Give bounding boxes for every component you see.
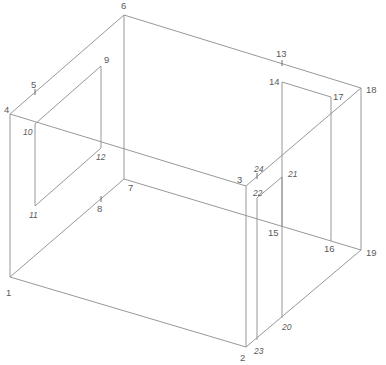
vertex-label-7: 7 (128, 182, 133, 193)
vertex-label-2: 2 (240, 352, 245, 363)
vertex-labels-group: 123456789101112131415161718192021222324 (4, 0, 377, 363)
room-wireframe-diagram: 123456789101112131415161718192021222324 (0, 0, 386, 365)
vertex-label-13: 13 (276, 48, 287, 59)
edge-7-19 (124, 179, 361, 250)
vertex-label-15: 15 (268, 227, 279, 238)
edge-2-19 (246, 250, 361, 347)
edge-14-17 (282, 82, 331, 97)
vertex-label-24: 24 (253, 164, 264, 174)
edge-9-10 (35, 66, 101, 124)
vertex-label-17: 17 (333, 91, 344, 102)
vertex-label-20: 20 (281, 322, 292, 332)
vertex-label-3: 3 (237, 174, 242, 185)
vertex-label-22: 22 (252, 188, 263, 198)
vertex-label-19: 19 (366, 247, 377, 258)
vertex-label-11: 11 (29, 210, 38, 220)
vertex-label-21: 21 (287, 169, 298, 179)
vertex-label-16: 16 (324, 243, 335, 254)
vertex-label-9: 9 (104, 54, 109, 65)
vertex-label-10: 10 (23, 127, 33, 137)
edge-6-18 (124, 15, 361, 88)
ticks-group (35, 60, 282, 202)
vertex-label-6: 6 (121, 0, 126, 11)
edges-group (10, 15, 361, 347)
vertex-label-1: 1 (6, 287, 11, 298)
vertex-label-14: 14 (269, 76, 280, 87)
edge-11-12 (35, 148, 101, 206)
vertex-label-5: 5 (31, 79, 36, 90)
vertex-label-4: 4 (4, 104, 9, 115)
vertex-label-23: 23 (253, 346, 264, 356)
vertex-label-8: 8 (97, 203, 102, 214)
vertex-label-18: 18 (366, 84, 377, 95)
vertex-label-12: 12 (96, 152, 106, 162)
edge-3-4 (10, 114, 246, 186)
edge-1-2 (10, 277, 246, 347)
edge-1-7 (10, 179, 124, 277)
